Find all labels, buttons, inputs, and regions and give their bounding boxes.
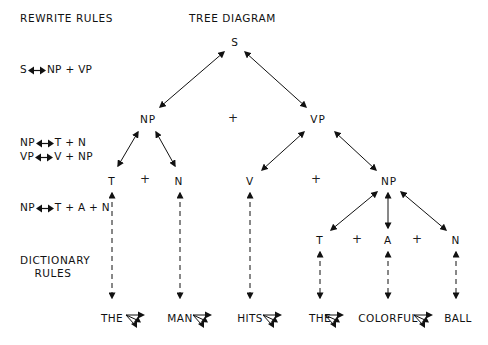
rewrite-rule: NPT + N — [20, 137, 86, 148]
tree-node-t2: T — [316, 235, 323, 246]
tree-node-a: A — [384, 235, 392, 246]
triple-arrow-icon — [193, 312, 212, 329]
dictionary-rules-line1: DICTIONARY — [20, 254, 86, 267]
sentence-word: COLORFUL — [358, 313, 417, 324]
double-arrow-edge — [245, 52, 306, 107]
double-arrow-edge — [401, 192, 446, 230]
rule-lhs: VP — [20, 150, 34, 162]
tree-edges — [118, 52, 446, 230]
rewrite-rule: NPT + A + N — [20, 202, 110, 213]
tree-node-np1: NP — [140, 114, 156, 125]
rule-lhs: S — [20, 63, 27, 75]
rewrite-rule: SNP + VP — [20, 64, 92, 75]
double-arrow-edge — [335, 132, 376, 170]
tree-diagram-heading: TREE DIAGRAM — [189, 13, 276, 24]
rule-rhs: V + NP — [54, 150, 93, 162]
plus-sign: + — [311, 173, 321, 185]
rewrite-rules-heading: REWRITE RULES — [20, 13, 113, 24]
double-arrow-edge — [160, 52, 224, 107]
double-arrow-edge — [262, 132, 304, 170]
triple-arrow-icon — [126, 312, 145, 329]
dictionary-rules-line2: RULES — [20, 267, 86, 280]
dictionary-rules-heading: DICTIONARY RULES — [20, 254, 86, 280]
rewrite-rule: VPV + NP — [20, 151, 93, 162]
double-arrow-icon — [36, 204, 54, 213]
tree-node-vp: VP — [310, 114, 326, 125]
double-arrow-edge — [156, 132, 175, 166]
rule-lhs: NP — [20, 201, 35, 213]
tree-node-n2: N — [452, 235, 461, 246]
double-arrow-icon — [28, 66, 46, 75]
tree-node-n1: N — [175, 176, 184, 187]
tree-node-np2: NP — [381, 176, 397, 187]
tree-node-s: S — [231, 37, 239, 48]
dictionary-dashed-edges — [112, 193, 456, 298]
sentence-word: THE — [101, 313, 123, 324]
plus-sign: + — [352, 233, 362, 245]
plus-sign: + — [140, 173, 150, 185]
rule-lhs: NP — [20, 136, 35, 148]
rule-rhs: T + N — [55, 136, 86, 148]
double-arrow-icon — [35, 153, 53, 162]
tree-diagram-canvas — [0, 0, 488, 345]
double-arrow-edge — [331, 192, 377, 230]
sentence-word: MAN — [167, 313, 192, 324]
plus-sign: + — [412, 233, 422, 245]
rule-rhs: NP + VP — [47, 63, 92, 75]
tree-node-v: V — [246, 176, 254, 187]
sentence-word: THE — [309, 313, 331, 324]
sentence-word: HITS — [237, 313, 263, 324]
double-arrow-edge — [118, 132, 138, 166]
rule-rhs: T + A + N — [55, 201, 110, 213]
triple-arrow-icon — [263, 312, 282, 329]
tree-node-t1: T — [108, 176, 115, 187]
plus-sign: + — [228, 112, 238, 124]
double-arrow-icon — [36, 139, 54, 148]
sentence-word: BALL — [444, 313, 472, 324]
